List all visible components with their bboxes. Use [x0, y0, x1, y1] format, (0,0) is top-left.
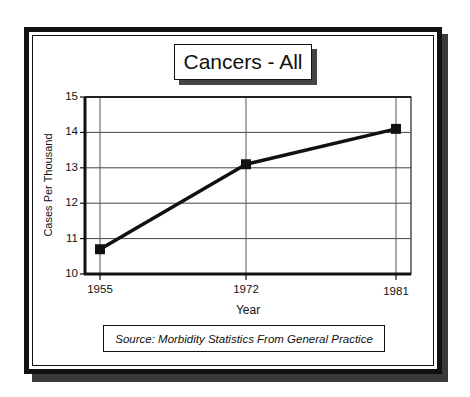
y-tick-label: 10	[54, 267, 78, 279]
x-tick-label: 1972	[233, 283, 259, 295]
data-point-marker	[391, 124, 401, 134]
y-axis-label: Cases Per Thousand	[42, 133, 54, 236]
y-tick-label: 13	[54, 161, 78, 173]
data-point-marker	[95, 244, 105, 254]
y-tick-label: 14	[54, 125, 78, 137]
data-point-marker	[241, 159, 251, 169]
y-tick-label: 12	[54, 196, 78, 208]
y-tick-label: 15	[54, 90, 78, 102]
x-tick-label: 1981	[383, 285, 409, 297]
x-tick-label: 1955	[87, 283, 113, 295]
source-note: Source: Morbidity Statistics From Genera…	[103, 325, 385, 352]
x-axis-label: Year	[236, 303, 260, 317]
y-tick-label: 11	[54, 232, 78, 244]
gridlines	[85, 97, 411, 274]
